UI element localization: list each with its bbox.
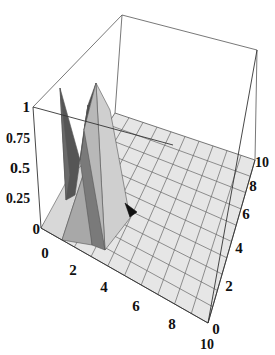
- surface-plot-3d: 1 0.75 0.5 0.25 0 0 2 4 6 8 10 0 2 4 6 8…: [0, 0, 275, 355]
- svg-text:10: 10: [200, 336, 214, 352]
- svg-text:4: 4: [100, 279, 108, 295]
- z-axis-labels: 1 0.75 0.5 0.25 0: [6, 99, 40, 237]
- svg-text:10: 10: [255, 154, 269, 170]
- svg-text:4: 4: [235, 240, 243, 256]
- svg-text:6: 6: [132, 298, 140, 314]
- svg-text:8: 8: [168, 316, 176, 332]
- svg-text:8: 8: [249, 178, 257, 194]
- svg-text:0: 0: [212, 321, 220, 337]
- svg-text:0: 0: [33, 221, 41, 237]
- svg-text:6: 6: [242, 206, 250, 222]
- svg-text:0: 0: [41, 245, 49, 261]
- svg-text:0.5: 0.5: [10, 160, 30, 176]
- svg-text:2: 2: [69, 262, 77, 278]
- svg-text:0.75: 0.75: [6, 130, 30, 146]
- svg-text:2: 2: [225, 278, 233, 294]
- svg-text:0.25: 0.25: [6, 190, 30, 206]
- svg-text:1: 1: [23, 99, 31, 115]
